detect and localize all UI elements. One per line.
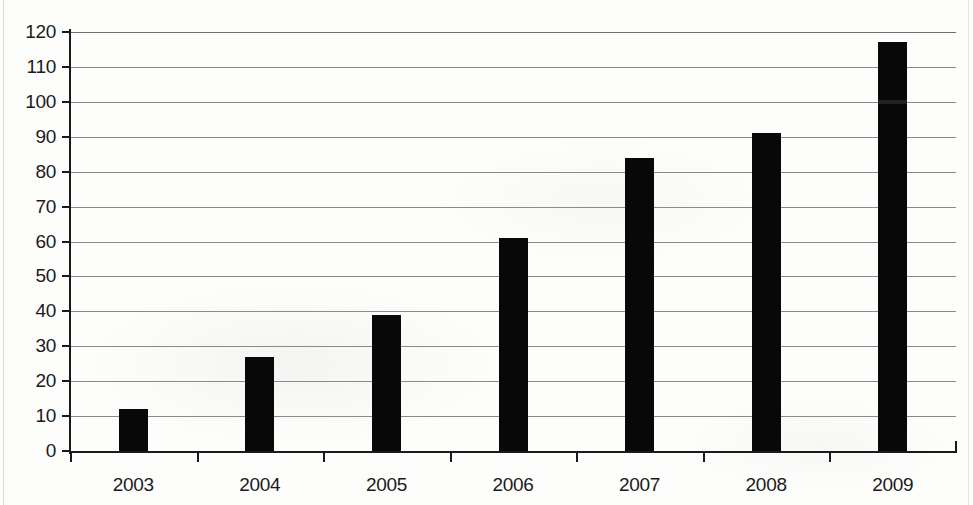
gridline [70,32,956,33]
x-axis-label-2007: 2007 [619,474,660,496]
x-axis-tick [703,451,705,462]
y-axis-tick [62,345,71,347]
x-axis-label-2005: 2005 [366,474,407,496]
page-border-right [968,0,969,505]
y-axis-label: 60 [35,231,56,253]
y-axis-tick [62,136,71,138]
y-axis-tick [62,275,71,277]
x-axis-tick [197,451,199,462]
y-axis-label: 30 [35,335,56,357]
y-axis-label: 80 [35,161,56,183]
y-axis-tick [62,66,71,68]
x-axis-label-2009: 2009 [872,474,913,496]
y-axis-tick [62,206,71,208]
page-border-left [3,0,4,505]
gridline [70,207,956,208]
y-axis-tick [62,101,71,103]
bar-2003 [119,409,148,451]
y-axis-tick [62,415,71,417]
gridline [70,67,956,68]
y-axis-label: 0 [46,440,56,462]
x-axis-label-2006: 2006 [492,474,533,496]
y-axis-tick [62,31,71,33]
bar-2009 [878,42,907,451]
bar-2004 [245,357,274,451]
chart-page: 0102030405060708090100110120 20032004200… [0,0,973,505]
plot-area: 0102030405060708090100110120 20032004200… [70,32,956,451]
gridline [70,102,956,103]
y-axis-label: 50 [35,265,56,287]
x-axis-tick [70,451,72,462]
x-axis-tick [323,451,325,462]
gridline [70,172,956,173]
x-axis-tick [576,451,578,462]
x-axis-end-tick [955,441,957,453]
x-axis-label-2008: 2008 [746,474,787,496]
y-axis-label: 10 [35,405,56,427]
x-axis-tick [450,451,452,462]
x-axis-tick [829,451,831,462]
y-axis-tick [62,310,71,312]
y-axis-label: 40 [35,300,56,322]
y-axis-label: 120 [25,21,56,43]
y-axis-tick [62,171,71,173]
gridline [70,137,956,138]
y-axis-label: 20 [35,370,56,392]
y-axis-label: 70 [35,196,56,218]
x-axis-label-2004: 2004 [239,474,280,496]
y-axis-label: 90 [35,126,56,148]
x-axis-label-2003: 2003 [113,474,154,496]
y-axis-label: 100 [25,91,56,113]
bar-2008 [752,133,781,451]
bar-2007 [625,158,654,451]
y-axis-tick [62,380,71,382]
y-axis-tick [62,241,71,243]
y-axis-label: 110 [27,56,56,78]
bar-2005 [372,315,401,451]
x-axis-line [69,451,957,453]
bar-2006 [499,238,528,451]
